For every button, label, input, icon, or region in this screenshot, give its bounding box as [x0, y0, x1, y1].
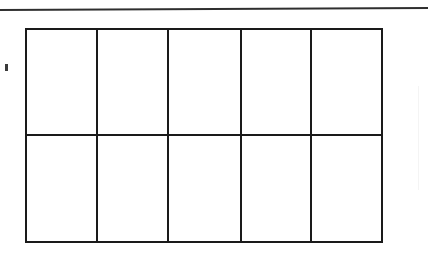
horizontal-rule [0, 7, 428, 11]
table-cell[interactable] [312, 30, 381, 134]
faint-vertical-rule [418, 86, 419, 190]
table-cell[interactable] [98, 30, 167, 134]
table-cell[interactable] [98, 136, 167, 241]
table-cell[interactable] [169, 136, 240, 241]
table-cell[interactable] [242, 30, 310, 134]
table-cell[interactable] [312, 136, 381, 241]
table-cell[interactable] [27, 30, 96, 134]
scanned-page [0, 0, 428, 266]
empty-table-grid [25, 28, 383, 243]
table-cell[interactable] [242, 136, 310, 241]
scan-speck [5, 64, 8, 71]
table-cell[interactable] [27, 136, 96, 241]
table-cell[interactable] [169, 30, 240, 134]
grid-row-line-2 [25, 241, 383, 243]
